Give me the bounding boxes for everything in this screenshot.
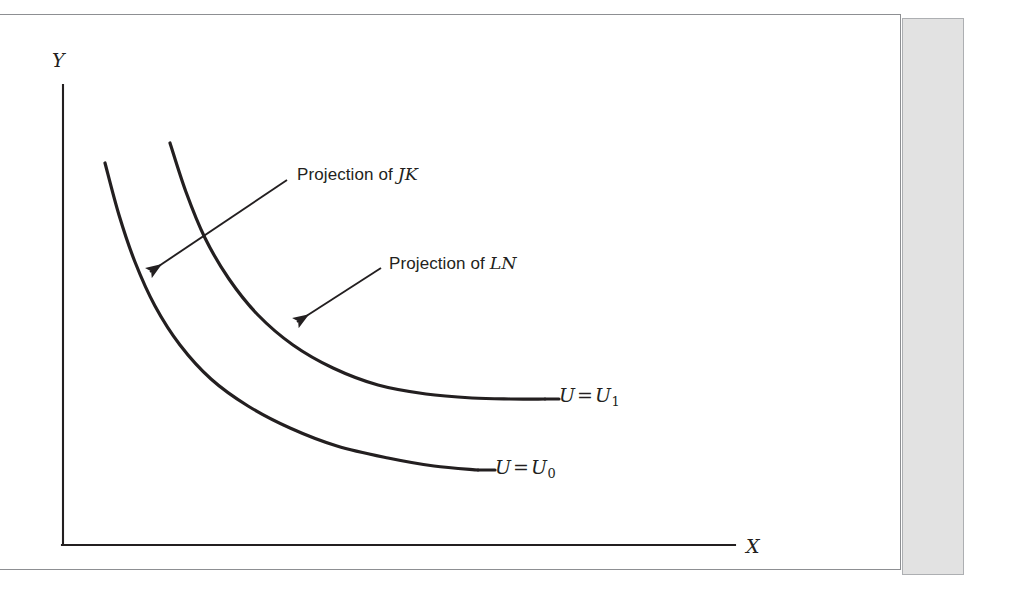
- callout-label-jk-prefix: Projection of: [297, 165, 398, 184]
- curve-label-u1-subscript: 1: [611, 394, 620, 409]
- curve-label-u1-rhs: U: [595, 384, 611, 406]
- page-canvas: Y X U=U1 U=U0 Projection of JK Projectio…: [0, 0, 1012, 594]
- curve-label-u0-rhs: U: [531, 456, 547, 478]
- curve-label-u0-relation: =: [511, 456, 531, 478]
- callout-label-ln: Projection of LN: [389, 255, 517, 273]
- curve-label-u1: U=U1: [559, 386, 620, 409]
- indifference-curve-u0: [105, 163, 478, 470]
- y-axis-label: Y: [52, 51, 65, 70]
- callout-label-jk-emphasis: JK: [398, 164, 418, 184]
- curve-label-u0-lhs: U: [495, 456, 511, 478]
- diagram-drawing: [0, 0, 1012, 594]
- callout-label-ln-prefix: Projection of: [389, 254, 490, 273]
- callout-arrow-jk: [150, 180, 287, 272]
- callout-arrow-ln: [297, 268, 381, 322]
- x-axis-label: X: [746, 537, 760, 556]
- curve-label-u1-lhs: U: [559, 384, 575, 406]
- callout-label-ln-emphasis: LN: [490, 253, 517, 273]
- curve-label-u0: U=U0: [495, 458, 556, 481]
- curve-label-u0-subscript: 0: [547, 466, 556, 481]
- callout-label-jk: Projection of JK: [297, 166, 418, 184]
- curve-label-u1-relation: =: [575, 384, 595, 406]
